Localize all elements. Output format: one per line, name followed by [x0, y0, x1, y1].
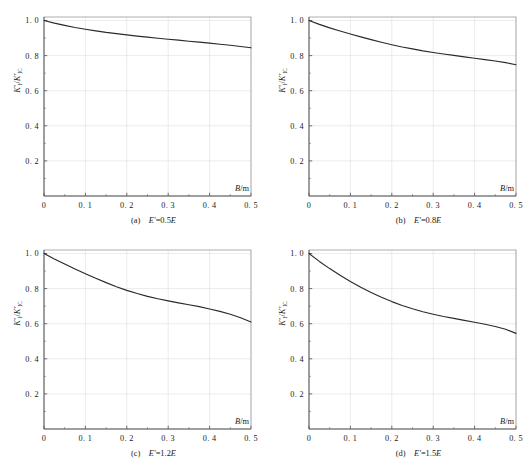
axis-labels: 0. 20. 40. 60. 81. 000. 10. 20. 30. 40. …	[278, 16, 523, 209]
gridlines	[309, 250, 516, 429]
figure-root: 0. 20. 40. 60. 81. 000. 10. 20. 30. 40. …	[0, 0, 530, 466]
x-axis-title: B/m	[500, 184, 514, 193]
x-tick-label: 0	[42, 434, 46, 443]
gridlines	[309, 17, 516, 196]
y-axis-title: K′I/K′IC	[278, 301, 288, 327]
y-tick-label: 0. 4	[25, 355, 39, 364]
data-curve	[309, 254, 516, 334]
y-tick-label: 0. 2	[25, 390, 39, 399]
x-tick-label: 0. 2	[120, 201, 134, 210]
x-tick-label: 0	[42, 201, 46, 210]
x-tick-label: 0. 3	[161, 434, 175, 443]
panel-caption: (a) E′=0.5E	[131, 216, 176, 225]
axis-ticks	[44, 254, 251, 429]
x-tick-label: 0. 2	[385, 434, 399, 443]
chart-panel-a: 0. 20. 40. 60. 81. 000. 10. 20. 30. 40. …	[0, 0, 265, 233]
y-axis-title: K′I/K′IC	[278, 68, 288, 94]
x-tick-label: 0. 5	[244, 434, 258, 443]
y-tick-label: 0. 8	[25, 52, 39, 61]
svg-text:(b) E′=0.8E: (b) E′=0.8E	[396, 216, 441, 225]
chart-panel-b: 0. 20. 40. 60. 81. 000. 10. 20. 30. 40. …	[265, 0, 530, 233]
svg-text:(d) E′=1.5E: (d) E′=1.5E	[396, 449, 441, 458]
panel-caption: (c) E′=1.2E	[131, 449, 176, 458]
x-tick-label: 0	[307, 434, 311, 443]
y-tick-label: 1. 0	[290, 16, 304, 25]
axis-labels: 0. 20. 40. 60. 81. 000. 10. 20. 30. 40. …	[13, 16, 258, 209]
x-tick-label: 0. 4	[468, 201, 482, 210]
svg-text:K′I/K′IC: K′I/K′IC	[278, 68, 288, 94]
y-tick-label: 0. 6	[25, 320, 39, 329]
y-tick-label: 0. 6	[290, 320, 304, 329]
x-axis-title: B/m	[500, 417, 514, 426]
x-tick-label: 0. 5	[509, 201, 523, 210]
y-tick-label: 0. 2	[25, 157, 39, 166]
x-tick-label: 0. 4	[203, 201, 217, 210]
data-curve	[44, 21, 251, 48]
x-tick-label: 0. 3	[426, 434, 440, 443]
y-axis-title: K′I/K′IC	[13, 301, 23, 327]
chart-panel-d: 0. 20. 40. 60. 81. 000. 10. 20. 30. 40. …	[265, 233, 530, 466]
y-tick-label: 0. 2	[290, 157, 304, 166]
x-tick-label: 0. 1	[79, 201, 93, 210]
axis-ticks	[44, 21, 251, 196]
x-tick-label: 0. 3	[426, 201, 440, 210]
plot-svg-b: 0. 20. 40. 60. 81. 000. 10. 20. 30. 40. …	[265, 0, 530, 233]
y-tick-label: 0. 8	[25, 285, 39, 294]
y-tick-label: 1. 0	[25, 16, 39, 25]
y-axis-title: K′I/K′IC	[13, 68, 23, 94]
svg-text:K′I/K′IC: K′I/K′IC	[278, 301, 288, 327]
svg-text:K′I/K′IC: K′I/K′IC	[13, 301, 23, 327]
y-tick-label: 0. 8	[290, 52, 304, 61]
y-tick-label: 0. 8	[290, 285, 304, 294]
plot-frame	[309, 17, 516, 196]
plot-svg-a: 0. 20. 40. 60. 81. 000. 10. 20. 30. 40. …	[0, 0, 265, 233]
axis-ticks	[309, 254, 516, 429]
svg-text:(a) E′=0.5E: (a) E′=0.5E	[131, 216, 176, 225]
x-axis-title: B/m	[235, 417, 249, 426]
x-tick-label: 0. 1	[344, 201, 358, 210]
x-tick-label: 0. 5	[509, 434, 523, 443]
x-tick-label: 0. 1	[79, 434, 93, 443]
plot-frame	[44, 250, 251, 429]
x-tick-label: 0. 2	[120, 434, 134, 443]
x-tick-label: 0. 4	[468, 434, 482, 443]
y-tick-label: 0. 4	[290, 122, 304, 131]
y-tick-label: 1. 0	[25, 249, 39, 258]
panel-caption: (b) E′=0.8E	[396, 216, 441, 225]
chart-panel-c: 0. 20. 40. 60. 81. 000. 10. 20. 30. 40. …	[0, 233, 265, 466]
x-axis-title: B/m	[235, 184, 249, 193]
svg-text:(c) E′=1.2E: (c) E′=1.2E	[131, 449, 176, 458]
y-tick-label: 1. 0	[290, 249, 304, 258]
gridlines	[44, 250, 251, 429]
x-tick-label: 0. 4	[203, 434, 217, 443]
plot-svg-c: 0. 20. 40. 60. 81. 000. 10. 20. 30. 40. …	[0, 233, 265, 466]
x-tick-label: 0. 2	[385, 201, 399, 210]
axis-labels: 0. 20. 40. 60. 81. 000. 10. 20. 30. 40. …	[13, 249, 258, 442]
x-tick-label: 0. 5	[244, 201, 258, 210]
y-tick-label: 0. 6	[290, 87, 304, 96]
axis-labels: 0. 20. 40. 60. 81. 000. 10. 20. 30. 40. …	[278, 249, 523, 442]
x-tick-label: 0. 3	[161, 201, 175, 210]
x-tick-label: 0. 1	[344, 434, 358, 443]
svg-text:K′I/K′IC: K′I/K′IC	[13, 68, 23, 94]
data-curve	[309, 21, 516, 65]
y-tick-label: 0. 6	[25, 87, 39, 96]
y-tick-label: 0. 2	[290, 390, 304, 399]
plot-frame	[309, 250, 516, 429]
y-tick-label: 0. 4	[25, 122, 39, 131]
axis-ticks	[309, 21, 516, 196]
plot-svg-d: 0. 20. 40. 60. 81. 000. 10. 20. 30. 40. …	[265, 233, 530, 466]
data-curve	[44, 254, 251, 322]
panel-caption: (d) E′=1.5E	[396, 449, 441, 458]
x-tick-label: 0	[307, 201, 311, 210]
y-tick-label: 0. 4	[290, 355, 304, 364]
